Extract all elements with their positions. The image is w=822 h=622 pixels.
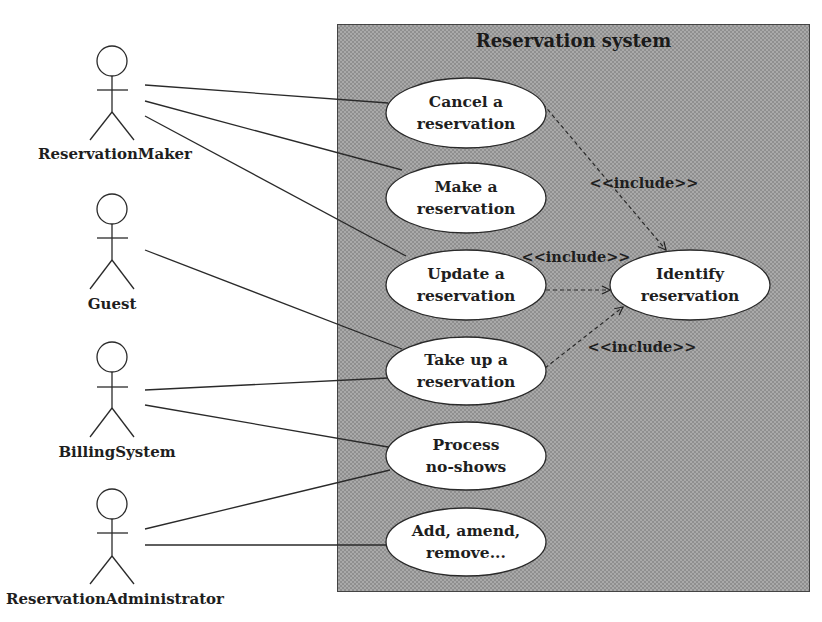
actor-icon-reservation-administrator[interactable] — [90, 489, 134, 584]
use-case-cancel[interactable]: Cancel a reservation — [417, 91, 516, 135]
use-case-diagram: Reservation system — [0, 0, 822, 622]
use-case-cancel-line1: Cancel a — [417, 91, 516, 113]
association-billing-takeup — [145, 378, 388, 390]
use-case-cancel-line2: reservation — [417, 113, 516, 135]
use-case-process-line2: no-shows — [426, 456, 506, 478]
actor-label-guest: Guest — [88, 295, 137, 313]
use-case-add-amend-remove[interactable]: Add, amend, remove... — [412, 520, 520, 564]
use-case-identify-line2: reservation — [641, 285, 740, 307]
use-case-add-line1: Add, amend, — [412, 520, 520, 542]
use-case-process-line1: Process — [426, 434, 506, 456]
use-case-add-line2: remove... — [412, 542, 520, 564]
actor-label-reservation-maker: ReservationMaker — [38, 145, 192, 163]
actor-label-reservation-administrator: ReservationAdministrator — [6, 590, 224, 608]
actor-icon-reservation-maker[interactable] — [90, 46, 134, 140]
include-label-cancel: <<include>> — [590, 174, 699, 191]
actor-icon-guest[interactable] — [90, 194, 134, 289]
use-case-take-up[interactable]: Take up a reservation — [417, 349, 516, 393]
actor-label-billing-system: BillingSystem — [58, 443, 175, 461]
use-case-take-up-line1: Take up a — [417, 349, 516, 371]
association-guest-takeup — [145, 250, 402, 349]
include-label-update: <<include>> — [522, 248, 631, 265]
association-admin-process — [145, 470, 390, 529]
use-case-update-line1: Update a — [417, 263, 516, 285]
actor-icon-billing-system[interactable] — [90, 342, 134, 437]
association-billing-process — [145, 405, 388, 447]
use-case-process-no-shows[interactable]: Process no-shows — [426, 434, 506, 478]
use-case-make-line1: Make a — [417, 176, 516, 198]
use-case-make[interactable]: Make a reservation — [417, 176, 516, 220]
use-case-take-up-line2: reservation — [417, 371, 516, 393]
association-maker-update — [145, 116, 406, 256]
use-case-update[interactable]: Update a reservation — [417, 263, 516, 307]
association-maker-cancel — [145, 85, 388, 103]
use-case-make-line2: reservation — [417, 198, 516, 220]
use-case-identify-line1: Identify — [641, 263, 740, 285]
include-label-take-up: <<include>> — [588, 338, 697, 355]
use-case-identify[interactable]: Identify reservation — [641, 263, 740, 307]
use-case-update-line2: reservation — [417, 285, 516, 307]
